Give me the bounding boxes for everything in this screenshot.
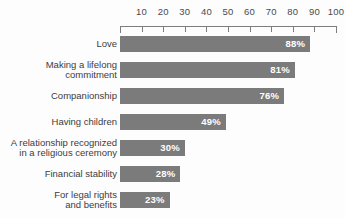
axis-tick-label: 10 bbox=[136, 6, 147, 17]
bar-value-label: 49% bbox=[201, 114, 221, 130]
axis-tick-label: 60 bbox=[244, 6, 255, 17]
bar-value-label: 28% bbox=[156, 166, 176, 182]
bar: 49% bbox=[120, 114, 226, 130]
bar-row: Love88% bbox=[0, 36, 345, 52]
bar-value-label: 76% bbox=[260, 88, 280, 104]
category-label: Having children bbox=[0, 117, 117, 128]
bar: 81% bbox=[120, 62, 295, 78]
bar: 88% bbox=[120, 36, 310, 52]
bar-row: For legal rights and benefits23% bbox=[0, 192, 345, 208]
plot-area: Love88%Making a lifelong commitment81%Co… bbox=[0, 32, 345, 218]
bar-value-label: 88% bbox=[285, 36, 305, 52]
axis-tick-label: 70 bbox=[266, 6, 277, 17]
axis-tick-label: 40 bbox=[201, 6, 212, 17]
category-label: For legal rights and benefits bbox=[0, 190, 117, 211]
bar: 76% bbox=[120, 88, 284, 104]
x-axis: 102030405060708090100 bbox=[120, 6, 336, 32]
category-label: A relationship recognized in a religious… bbox=[0, 138, 117, 159]
bar-chart: 102030405060708090100 Love88%Making a li… bbox=[0, 0, 345, 218]
bar: 30% bbox=[120, 140, 185, 156]
bar-row: Companionship76% bbox=[0, 88, 345, 104]
bar-row: A relationship recognized in a religious… bbox=[0, 140, 345, 156]
bar-value-label: 30% bbox=[160, 140, 180, 156]
axis-tick-label: 90 bbox=[309, 6, 320, 17]
axis-tick-label: 100 bbox=[328, 6, 344, 17]
bar-row: Financial stability28% bbox=[0, 166, 345, 182]
bar-row: Having children49% bbox=[0, 114, 345, 130]
bar-row: Making a lifelong commitment81% bbox=[0, 62, 345, 78]
bar: 23% bbox=[120, 192, 170, 208]
bar-value-label: 23% bbox=[145, 192, 165, 208]
axis-tick-label: 50 bbox=[223, 6, 234, 17]
axis-tick-label: 30 bbox=[179, 6, 190, 17]
axis-tick-label: 20 bbox=[158, 6, 169, 17]
category-label: Making a lifelong commitment bbox=[0, 60, 117, 81]
bar: 28% bbox=[120, 166, 180, 182]
axis-tick-label: 80 bbox=[287, 6, 298, 17]
category-label: Financial stability bbox=[0, 169, 117, 180]
category-label: Love bbox=[0, 39, 117, 50]
category-label: Companionship bbox=[0, 91, 117, 102]
bar-value-label: 81% bbox=[270, 62, 290, 78]
